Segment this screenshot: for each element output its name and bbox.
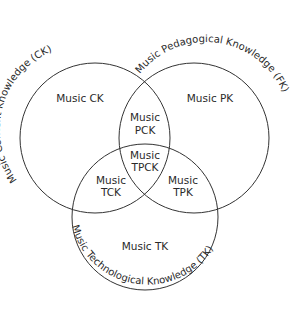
ck-circle-label: Music Content Knowledge (CK) [0, 43, 53, 185]
region-pck-line2: PCK [135, 124, 157, 136]
region-pck-line1: Music [130, 111, 160, 123]
content-knowledge-circle [20, 63, 170, 213]
region-tck-line2: TCK [100, 186, 122, 198]
region-tpck-line2: TPCK [131, 161, 160, 173]
pk-circle-label: Music Pedagogical Knowledge (FK) [133, 33, 291, 94]
venn-diagram: Music Content Knowledge (CK) Music Pedag… [0, 0, 305, 317]
region-ck: Music CK [56, 92, 105, 104]
tk-circle-label: Music Technological Knowledge (TK) [70, 223, 215, 286]
region-tk: Music TK [122, 240, 170, 252]
region-tpk-line1: Music [168, 174, 198, 186]
region-pk: Music PK [187, 92, 235, 104]
pedagogical-knowledge-circle [119, 63, 269, 213]
region-tpk-line2: TPK [172, 186, 194, 198]
region-tck-line1: Music [96, 174, 126, 186]
region-tpck-line1: Music [130, 149, 160, 161]
